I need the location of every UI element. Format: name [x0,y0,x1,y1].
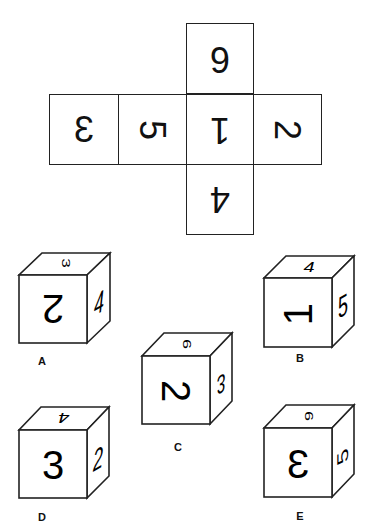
net-face-right: 2 [253,94,322,165]
cube-e-front-number: 3 [284,442,312,486]
option-d-cube[interactable]: 3 4 2 [19,406,119,506]
net-face-bottom: 4 [186,164,254,235]
cube-b-top-number: 4 [299,260,319,275]
cube-b-front-number: 1 [276,300,320,328]
net-face-center-number: 1 [210,112,230,148]
cube-e-top-number: 6 [303,406,315,426]
cube-d-top-number: 4 [54,411,74,425]
cube-a-right-number: 4 [93,280,105,327]
net-face-center: 1 [186,94,254,165]
option-d-label: D [32,511,52,523]
option-c-cube[interactable]: 2 6 3 [142,333,242,433]
option-b-label: B [290,352,310,364]
net-face-bottom-number: 4 [210,181,230,217]
option-e-cube[interactable]: 3 6 5 [264,404,364,504]
net-face-far-left-number: 3 [74,112,94,148]
cube-a-top-number: 3 [59,253,71,273]
net-face-right-number: 2 [269,119,305,139]
cube-c-front-number: 2 [154,377,198,405]
option-c-label: C [168,441,188,453]
net-face-left-number: 5 [135,119,171,139]
net-face-far-left: 3 [49,94,119,165]
net-face-left: 5 [118,94,188,165]
cube-b-right-number: 5 [337,283,349,330]
option-e-label: E [290,510,310,522]
cube-d-right-number: 2 [92,436,104,483]
cube-a-front-number: 2 [39,287,67,331]
net-face-top: 6 [186,23,254,94]
cube-d-front-number: 3 [39,443,67,487]
cube-c-top-number: 6 [181,334,193,354]
option-a-cube[interactable]: 2 3 4 [19,253,119,353]
option-b-cube[interactable]: 1 4 5 [264,256,364,356]
net-face-top-number: 6 [210,41,230,77]
option-a-label: A [32,355,52,367]
cube-c-right-number: 3 [215,361,227,408]
